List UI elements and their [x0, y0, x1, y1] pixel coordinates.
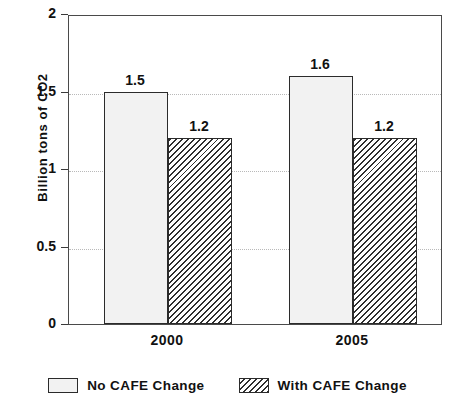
- bar[interactable]: [168, 138, 232, 324]
- bar-chart-figure: Billion tons of CO2 21.510.50 1.51.21.61…: [0, 0, 455, 418]
- legend-swatch-dotted-icon: [48, 378, 78, 393]
- y-tick-mark: [61, 169, 68, 170]
- y-tick-label: 1.5: [37, 83, 56, 99]
- y-tick-mark: [61, 247, 68, 248]
- y-tick-label: 1: [48, 160, 56, 176]
- bar[interactable]: [289, 76, 353, 324]
- y-tick-mark: [61, 92, 68, 93]
- y-axis-title: Billion tons of CO2: [35, 28, 50, 248]
- bar[interactable]: [353, 138, 417, 324]
- y-tick-label: 0: [48, 315, 56, 331]
- x-axis-tick-label: 2005: [335, 332, 368, 348]
- legend-label-with-cafe-change: With CAFE Change: [278, 378, 407, 393]
- chart-legend: No CAFE Change With CAFE Change: [0, 378, 455, 393]
- bar-value-label: 1.5: [125, 72, 144, 88]
- y-tick-label: 2: [48, 5, 56, 21]
- bar-value-label: 1.6: [310, 56, 329, 72]
- y-tick-mark: [61, 14, 68, 15]
- x-axis-tick-label: 2000: [150, 332, 183, 348]
- legend-entry-no-cafe-change[interactable]: No CAFE Change: [48, 378, 204, 393]
- legend-entry-with-cafe-change[interactable]: With CAFE Change: [239, 378, 407, 393]
- plot-area: [68, 15, 442, 325]
- bar-value-label: 1.2: [189, 118, 208, 134]
- y-tick-label: 0.5: [37, 238, 56, 254]
- bar[interactable]: [104, 92, 168, 325]
- bar-value-label: 1.2: [374, 118, 393, 134]
- y-tick-mark: [61, 324, 68, 325]
- legend-swatch-hatch-icon: [239, 378, 269, 393]
- legend-label-no-cafe-change: No CAFE Change: [87, 378, 204, 393]
